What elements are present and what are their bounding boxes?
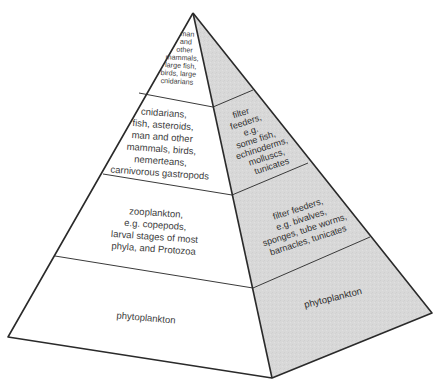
tier-1-left-label: man and other mammals, large fish, birds… — [160, 28, 200, 87]
trophic-pyramid-diagram: man and other mammals, large fish, birds… — [0, 0, 435, 384]
svg-text:cnidarians: cnidarians — [160, 76, 194, 87]
